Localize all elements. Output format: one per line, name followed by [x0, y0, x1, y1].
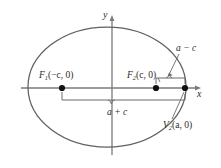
focus-1-marker	[59, 85, 65, 91]
diagram-canvas	[0, 0, 221, 168]
a-minus-c-brace	[156, 54, 185, 84]
y-axis-label: y	[103, 10, 107, 20]
a-plus-c-label: a + c	[107, 108, 127, 118]
focus-1-label-coords: (−c, 0)	[48, 70, 73, 80]
vertex-2-marker	[182, 85, 188, 91]
ellipse-diagram: y x F1(−c, 0) F2(c, 0) V2(a, 0) a + c a …	[0, 0, 221, 168]
vertex-2-label: V2(a, 0)	[163, 121, 192, 131]
y-axis-arrow	[110, 15, 115, 21]
f2-leader-line	[158, 78, 160, 82]
a-minus-c-label: a − c	[176, 44, 196, 54]
focus-2-label: F2(c, 0)	[127, 71, 156, 81]
focus-2-label-coords: (c, 0)	[136, 70, 156, 80]
x-axis-label: x	[197, 89, 201, 99]
focus-1-label: F1(−c, 0)	[39, 71, 73, 81]
vertex-2-label-coords: (a, 0)	[172, 120, 192, 130]
a-plus-c-bracket	[62, 92, 185, 104]
focus-2-marker	[153, 85, 159, 91]
